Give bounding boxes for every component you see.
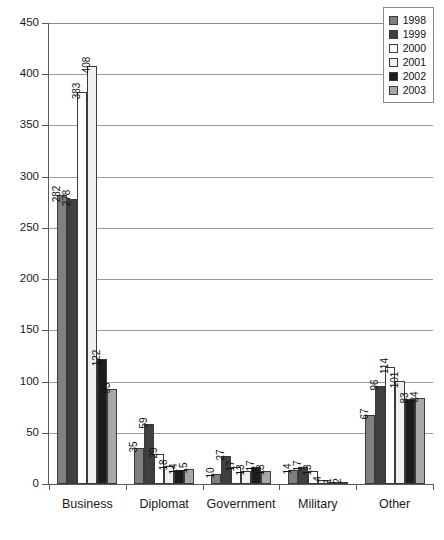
bar-slot: 29 [154,23,164,484]
bar-slot: 15 [184,23,194,484]
bar-value-label: 383 [72,82,82,99]
x-axis-tick [356,484,357,490]
legend-item-label: 2002 [403,71,426,82]
bar-group-bars: 28227838340812293 [49,23,126,484]
legend-item-label: 1998 [403,15,426,26]
x-axis-tick [203,484,204,490]
legend-item[interactable]: 2003 [389,83,426,97]
bar[interactable]: 278 [67,199,77,484]
x-axis-category-label: Military [298,498,338,511]
bar-value-label: 93 [102,382,112,393]
bar-slot: 13 [308,23,318,484]
bar-value-label: 96 [370,379,380,390]
legend-swatch-icon [389,30,398,39]
bar[interactable]: 383 [77,92,87,484]
bar[interactable]: 14 [288,470,298,484]
bar[interactable]: 93 [107,389,117,484]
y-axis-tick-label: 0 [33,478,39,490]
bar-slot: 67 [365,23,375,484]
legend-item[interactable]: 2000 [389,41,426,55]
bar-group: 28227838340812293Business [49,23,126,484]
bar[interactable]: 408 [87,66,97,484]
x-axis-category-label: Government [207,498,276,511]
y-axis-tick-label: 300 [20,171,39,183]
bar[interactable]: 83 [405,399,415,484]
bar-slot: 35 [134,23,144,484]
y-axis-tick [42,382,48,383]
x-axis-tick [433,484,434,490]
y-axis-tick [42,330,48,331]
legend-item[interactable]: 2001 [389,55,426,69]
bar-slot: 17 [298,23,308,484]
y-axis-tick-label: 450 [20,17,39,29]
y-axis-tick [42,484,48,485]
bar-group: 355929181415Diplomat [126,23,203,484]
y-axis-tick [42,433,48,434]
legend-item-label: 2001 [403,57,426,68]
y-axis-tick [42,23,48,24]
legend-item-label: 2000 [403,43,426,54]
y-axis-tick [42,279,48,280]
legend-item[interactable]: 1999 [389,27,426,41]
bar-slot: 383 [77,23,87,484]
legend-swatch-icon [389,72,398,81]
bar-slot: 2 [338,23,348,484]
x-axis-category-label: Diplomat [140,498,189,511]
bar-slot: 18 [164,23,174,484]
bar-value-label: 13 [256,464,266,475]
bar-value-label: 84 [410,391,420,402]
bar-group: 102717131713Government [203,23,280,484]
y-axis-tick-label: 400 [20,68,39,80]
bar[interactable]: 35 [134,448,144,484]
legend-swatch-icon [389,16,398,25]
bar-value-label: 67 [360,409,370,420]
bar-slot: 1 [328,23,338,484]
bar[interactable]: 10 [211,474,221,484]
bar[interactable]: 282 [57,195,67,484]
chart-legend: 199819992000200120022003 [383,7,434,103]
bar-slot: 282 [57,23,67,484]
bar[interactable]: 96 [375,386,385,484]
bar-group-bars: 355929181415 [126,23,203,484]
bar-slot: 408 [87,23,97,484]
legend-swatch-icon [389,58,398,67]
bar[interactable]: 122 [97,359,107,484]
bar[interactable]: 84 [415,398,425,484]
y-axis-tick [42,74,48,75]
legend-item[interactable]: 1998 [389,13,426,27]
bar-value-label: 2 [333,478,343,484]
x-axis-tick [279,484,280,490]
bar-slot: 14 [174,23,184,484]
y-axis-tick [42,125,48,126]
x-axis-category-label: Other [379,498,410,511]
bar-slot: 10 [211,23,221,484]
bar[interactable]: 67 [365,415,375,484]
bar[interactable]: 2 [338,482,348,484]
legend-swatch-icon [389,86,398,95]
bar-slot: 14 [288,23,298,484]
y-axis-tick [42,177,48,178]
bar-value-label: 10 [206,467,216,478]
bar-chart: 0501001502002503003504004502822783834081… [0,0,444,540]
bar[interactable]: 15 [184,469,194,484]
bar-slot: 13 [241,23,251,484]
bar-value-label: 13 [303,464,313,475]
bar[interactable]: 13 [261,471,271,484]
legend-item-label: 1999 [403,29,426,40]
bar-group: 141713412Military [279,23,356,484]
y-axis-tick-label: 100 [20,376,39,388]
bar-slot: 59 [144,23,154,484]
bar-value-label: 278 [62,190,72,207]
legend-item-label: 2003 [403,85,426,96]
bar-group-bars: 102717131713 [203,23,280,484]
y-axis-tick-label: 50 [26,427,39,439]
legend-swatch-icon [389,44,398,53]
legend-item[interactable]: 2002 [389,69,426,83]
y-axis-tick-label: 250 [20,222,39,234]
bar-value-label: 101 [390,371,400,388]
bar-value-label: 408 [82,57,92,74]
bar-value-label: 35 [129,442,139,453]
bar-slot: 4 [318,23,328,484]
bar[interactable]: 13 [241,471,251,484]
bar-slot: 17 [251,23,261,484]
